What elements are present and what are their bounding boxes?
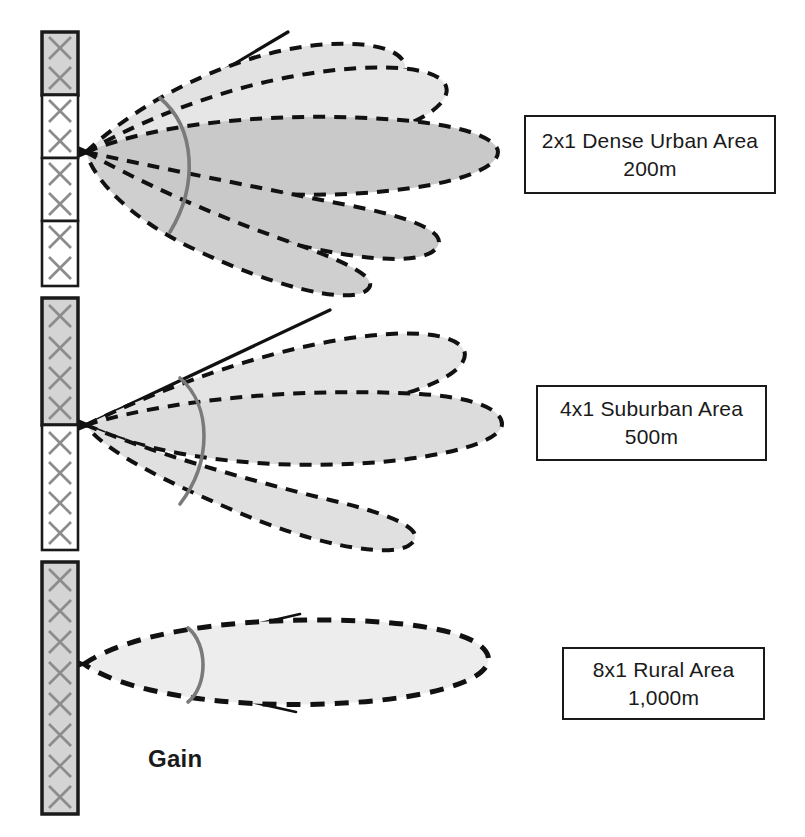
scenario-label-dense-urban: 2x1 Dense Urban Area 200m — [524, 115, 776, 194]
antenna-array-dense-urban — [42, 32, 78, 286]
array-cell-active — [42, 562, 78, 814]
scenario-rural-graphic — [60, 614, 488, 712]
antenna-array-rural — [42, 562, 78, 814]
scenario-label-suburban: 4x1 Suburban Area 500m — [536, 385, 767, 461]
lobe-main-rural — [84, 620, 488, 705]
antenna-array-suburban — [42, 298, 78, 550]
array-cell-active — [42, 32, 78, 95]
scenario-label-rural: 8x1 Rural Area 1,000m — [562, 647, 765, 720]
scenario-label-line-2: 500m — [625, 423, 678, 451]
gain-annotation: Gain — [148, 745, 203, 773]
scenario-label-line-1: 2x1 Dense Urban Area — [542, 127, 758, 155]
scenario-label-line-2: 1,000m — [628, 684, 699, 712]
antenna-beamwidth-diagram: 2x1 Dense Urban Area 200m 4x1 Suburban A… — [0, 0, 805, 837]
scenario-label-line-2: 200m — [623, 155, 676, 183]
scenario-label-line-1: 4x1 Suburban Area — [560, 395, 743, 423]
scenario-suburban-graphic — [62, 310, 502, 550]
array-cell-inactive — [42, 95, 78, 158]
array-cell-inactive — [42, 221, 78, 286]
scenario-dense-urban-graphic — [62, 32, 498, 295]
array-cell-inactive — [42, 158, 78, 221]
scenario-label-line-1: 8x1 Rural Area — [593, 656, 735, 684]
